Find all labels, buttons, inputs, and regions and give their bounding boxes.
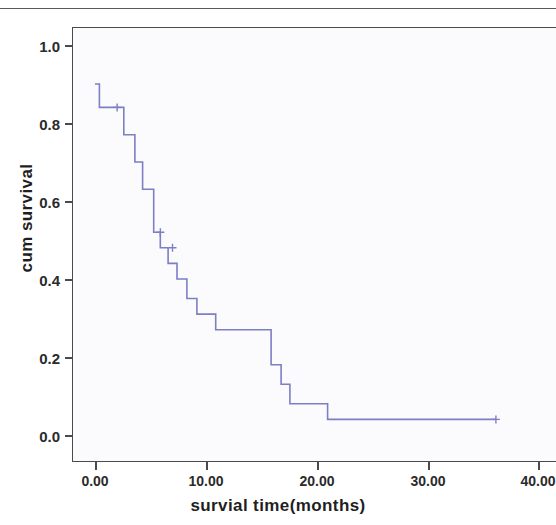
survival-step-line <box>95 84 496 419</box>
x-axis-title: survial time(months) <box>0 496 556 516</box>
y-axis-title: cum survival <box>17 128 37 308</box>
censored-mark <box>492 415 500 423</box>
censored-mark <box>156 228 164 236</box>
censored-mark <box>169 244 177 252</box>
survival-figure: 1.0 0.8 0.6 0.4 0.2 0.0 0.00 10.00 20.00… <box>0 0 556 525</box>
censored-mark <box>113 103 121 111</box>
survival-curve-layer <box>0 0 556 525</box>
